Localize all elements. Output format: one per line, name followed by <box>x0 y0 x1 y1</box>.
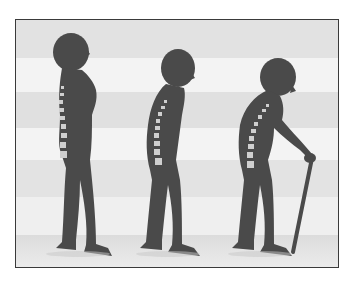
posture-illustration <box>16 20 339 268</box>
floor-shadows <box>46 251 292 257</box>
illustration-frame <box>15 19 339 268</box>
